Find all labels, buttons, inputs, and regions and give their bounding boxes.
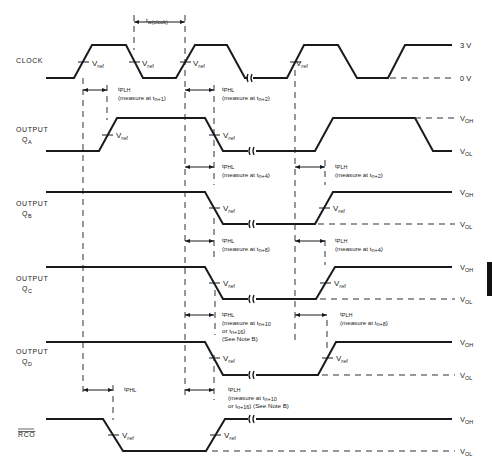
svg-text:Vref: Vref (116, 131, 128, 141)
signal-clock: CLOCK 3 V 0 V Vref Vref Vref Vref (16, 41, 471, 83)
svg-text:OUTPUT: OUTPUT (16, 126, 48, 133)
timing-qc-phl: tPHL (measure at tn+8) (185, 236, 270, 253)
svg-text:(measure at tn+2): (measure at tn+2) (222, 94, 270, 102)
svg-text:Vref: Vref (92, 59, 104, 69)
timing-qb-phl: tPHL (measure at tn+4) (185, 162, 270, 179)
svg-text:(measure at tn+4): (measure at tn+4) (335, 245, 383, 253)
timing-diagram: CLOCK 3 V 0 V Vref Vref Vref Vref tw(clo… (0, 0, 492, 466)
svg-text:RCO: RCO (18, 431, 35, 438)
svg-text:(See Note B): (See Note B) (222, 335, 258, 342)
svg-text:OUTPUT: OUTPUT (16, 200, 48, 207)
timing-rco-plh: tPLH (measure at tn+10 or tn+16) (See No… (185, 385, 289, 410)
svg-text:tPLH: tPLH (228, 385, 240, 393)
svg-text:VOL: VOL (460, 295, 472, 305)
svg-text:Vref: Vref (223, 354, 235, 364)
signal-label-clock: CLOCK (16, 57, 43, 64)
svg-text:tw(clock): tw(clock) (146, 16, 168, 25)
svg-text:or tn+16) (See Note B): or tn+16) (See Note B) (228, 402, 289, 410)
timing-rco-phl: tPHL (83, 385, 136, 393)
svg-text:Vref: Vref (224, 431, 236, 441)
signal-qb: OUTPUT QB VOH VOL Vref Vref (16, 188, 473, 230)
svg-text:or tn+16): or tn+16) (222, 327, 245, 335)
svg-text:Vref: Vref (122, 431, 134, 441)
svg-text:OUTPUT: OUTPUT (16, 275, 48, 282)
svg-text:VOH: VOH (460, 415, 473, 425)
svg-text:VOL: VOL (460, 447, 472, 457)
svg-text:tPHL: tPHL (124, 385, 136, 393)
signal-rco: RCO VOH VOL Vref Vref (18, 415, 473, 457)
svg-text:VOH: VOH (460, 263, 473, 273)
svg-text:QD: QD (22, 358, 33, 367)
svg-text:Vref: Vref (193, 59, 205, 69)
svg-text:(measure at tn+10: (measure at tn+10 (228, 394, 277, 402)
svg-text:Vref: Vref (334, 279, 346, 289)
svg-text:tPHL: tPHL (222, 310, 234, 318)
svg-text:(measure at tn+2): (measure at tn+2) (335, 171, 383, 179)
signal-qd: OUTPUT QD VOH VOL Vref Vref (16, 338, 473, 381)
svg-text:tPHL: tPHL (222, 85, 234, 93)
svg-text:VOL: VOL (460, 371, 472, 381)
signal-qc: OUTPUT QC VOH VOL Vref Vref (16, 263, 473, 305)
svg-text:(measure at tn+4): (measure at tn+4) (222, 171, 270, 179)
timing-qd-phl: tPHL (measure at tn+10 or tn+16) (See No… (185, 310, 271, 342)
rail-0v: 0 V (460, 74, 471, 83)
svg-text:VOH: VOH (460, 114, 473, 124)
svg-text:tPHL: tPHL (222, 236, 234, 244)
svg-text:Vref: Vref (223, 279, 235, 289)
svg-text:(measure at tn+1): (measure at tn+1) (118, 94, 166, 102)
svg-text:tPLH: tPLH (118, 85, 130, 93)
svg-text:VOH: VOH (460, 188, 473, 198)
timing-qa-plh-2: tPLH (measure at tn+2) (295, 162, 383, 179)
svg-text:QB: QB (22, 210, 32, 219)
svg-text:QA: QA (22, 136, 32, 145)
pulse-width-annotation: tw(clock) (134, 16, 185, 25)
svg-text:tPLH: tPLH (335, 162, 347, 170)
timing-clk-qa-phl: tPHL (measure at tn+2) (185, 85, 270, 102)
vertical-reference-lines (83, 15, 327, 420)
svg-text:tPLH: tPLH (340, 310, 352, 318)
svg-text:Vref: Vref (142, 59, 154, 69)
signal-qa: OUTPUT QA VOH VOL Vref Vref (16, 114, 473, 157)
svg-text:(measure at tn+8): (measure at tn+8) (340, 319, 388, 327)
timing-qb-plh: tPLH (measure at tn+4) (295, 236, 383, 253)
svg-text:(measure at tn+8): (measure at tn+8) (222, 245, 270, 253)
page-edge-tab (487, 262, 492, 296)
svg-text:tPHL: tPHL (222, 162, 234, 170)
svg-text:VOL: VOL (460, 220, 472, 230)
svg-text:QC: QC (22, 285, 33, 294)
svg-text:(measure at tn+10: (measure at tn+10 (222, 319, 271, 327)
timing-qc-plh: tPLH (measure at tn+8) (295, 310, 388, 327)
svg-text:VOL: VOL (460, 147, 472, 157)
svg-text:VOH: VOH (460, 338, 473, 348)
rail-3v: 3 V (460, 41, 471, 50)
svg-text:Vref: Vref (333, 204, 345, 214)
svg-text:Vref: Vref (223, 204, 235, 214)
svg-text:tPLH: tPLH (335, 236, 347, 244)
svg-text:Vref: Vref (336, 354, 348, 364)
svg-text:OUTPUT: OUTPUT (16, 348, 48, 355)
svg-text:Vref: Vref (223, 131, 235, 141)
svg-text:Vref: Vref (296, 59, 308, 69)
timing-clk-qa-plh: tPLH (measure at tn+1) (83, 85, 166, 102)
